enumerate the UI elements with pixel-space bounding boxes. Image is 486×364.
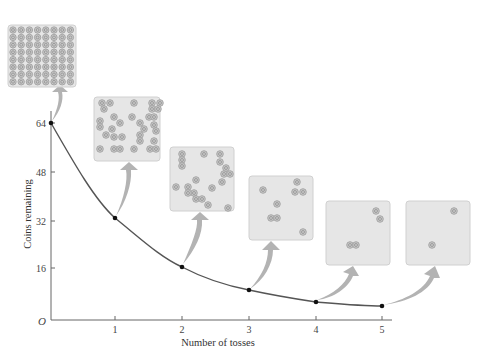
- coin-icon: [217, 159, 224, 166]
- coin-icon: [99, 100, 106, 107]
- coin-icon: [26, 34, 32, 40]
- coin-panel-3: [249, 176, 313, 240]
- coin-panel-2: [170, 147, 234, 211]
- arrow-icon: [383, 266, 440, 305]
- coin-icon: [300, 189, 307, 196]
- coin-icon: [26, 42, 32, 48]
- coin-icon: [43, 27, 49, 33]
- coin-icon: [227, 171, 234, 178]
- coin-icon: [67, 79, 73, 85]
- coin-icon: [59, 64, 65, 70]
- coin-icon: [131, 146, 138, 153]
- coin-icon: [34, 42, 40, 48]
- coin-icon: [117, 120, 124, 127]
- coin-icon: [10, 71, 16, 77]
- coin-icon: [151, 138, 158, 145]
- coin-icon: [59, 71, 65, 77]
- coin-icon: [199, 196, 206, 203]
- data-point: [247, 288, 252, 293]
- coin-icon: [67, 71, 73, 77]
- data-point: [380, 304, 385, 309]
- coin-icon: [34, 71, 40, 77]
- coin-icon: [34, 49, 40, 55]
- coin-icon: [217, 151, 224, 158]
- coin-icon: [18, 27, 24, 33]
- coin-icon: [43, 56, 49, 62]
- data-point: [314, 300, 319, 305]
- coin-icon: [119, 134, 126, 141]
- coin-icon: [155, 106, 162, 113]
- coin-icon: [173, 184, 180, 191]
- coin-icon: [10, 49, 16, 55]
- coin-icon: [10, 27, 16, 33]
- coin-icon: [260, 187, 267, 194]
- coin-icon: [26, 56, 32, 62]
- coin-icon: [26, 27, 32, 33]
- coin-icon: [137, 120, 144, 127]
- coin-icon: [103, 132, 110, 139]
- coin-icon: [51, 64, 57, 70]
- coin-icon: [193, 177, 200, 184]
- coin-icon: [34, 34, 40, 40]
- coin-icon: [97, 146, 104, 153]
- coin-icon: [274, 215, 281, 222]
- x-axis-label: Number of tosses: [181, 337, 255, 348]
- coin-icon: [26, 49, 32, 55]
- coin-icon: [67, 49, 73, 55]
- coin-icon: [18, 49, 24, 55]
- x-ticks: 1 2 3 4 5: [113, 316, 385, 335]
- coin-icon: [97, 124, 104, 131]
- coin-icon: [34, 64, 40, 70]
- coin-icon: [18, 34, 24, 40]
- y-tick-64: 64: [36, 118, 46, 129]
- coin-icon: [117, 146, 124, 153]
- coin-icon: [59, 79, 65, 85]
- coin-icon: [153, 128, 160, 135]
- data-point: [180, 265, 185, 270]
- coin-panel-5: [406, 201, 470, 265]
- x-tick-3: 3: [247, 324, 252, 335]
- coin-icon: [10, 79, 16, 85]
- coin-icon: [137, 138, 144, 145]
- coin-icon: [223, 165, 230, 172]
- coin-icon: [51, 42, 57, 48]
- coin-icon: [209, 185, 216, 192]
- data-point: [49, 121, 54, 126]
- arrow-icon: [250, 241, 280, 289]
- coin-icon: [67, 56, 73, 62]
- coin-icon: [151, 114, 158, 121]
- arrow-icon: [183, 212, 209, 264]
- coin-icon: [185, 190, 192, 197]
- coin-icon: [26, 71, 32, 77]
- coin-icon: [67, 34, 73, 40]
- coin-icon: [429, 242, 436, 249]
- coin-icon: [292, 189, 299, 196]
- coin-icon: [153, 146, 160, 153]
- coin-icon: [219, 179, 226, 186]
- coin-panel-4: [326, 201, 390, 265]
- coin-icon: [59, 27, 65, 33]
- coin-toss-decay-chart: 64 48 32 16 1 2 3 4 5 O Number of tosses…: [0, 0, 486, 364]
- coin-icon: [373, 208, 380, 215]
- coin-icon: [34, 79, 40, 85]
- coin-icon: [10, 64, 16, 70]
- coin-icon: [225, 205, 232, 212]
- coin-icon: [10, 34, 16, 40]
- coin-icon: [43, 34, 49, 40]
- arrow-icon: [116, 162, 138, 216]
- coin-icon: [59, 56, 65, 62]
- coin-icon: [101, 106, 108, 113]
- coin-icon: [18, 64, 24, 70]
- coin-icon: [26, 64, 32, 70]
- coin-icon: [129, 114, 136, 121]
- coin-icon: [59, 34, 65, 40]
- y-axis-label: Coins remaining: [22, 178, 33, 248]
- coin-icon: [43, 64, 49, 70]
- x-tick-1: 1: [113, 324, 118, 335]
- coin-icon: [59, 42, 65, 48]
- coin-icon: [59, 49, 65, 55]
- coin-icon: [18, 79, 24, 85]
- coin-icon: [131, 100, 138, 107]
- coin-icon: [274, 201, 281, 208]
- coin-icon: [34, 56, 40, 62]
